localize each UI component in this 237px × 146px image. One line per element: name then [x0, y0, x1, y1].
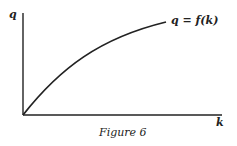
figure-6: q q = f(k) k Figure 6 — [0, 0, 237, 146]
production-function-curve — [23, 22, 166, 115]
figure-caption: Figure 6 — [99, 126, 147, 139]
y-axis-label: q — [9, 8, 17, 21]
curve-label: q = f(k) — [171, 14, 218, 27]
x-axis-label: k — [216, 116, 224, 129]
